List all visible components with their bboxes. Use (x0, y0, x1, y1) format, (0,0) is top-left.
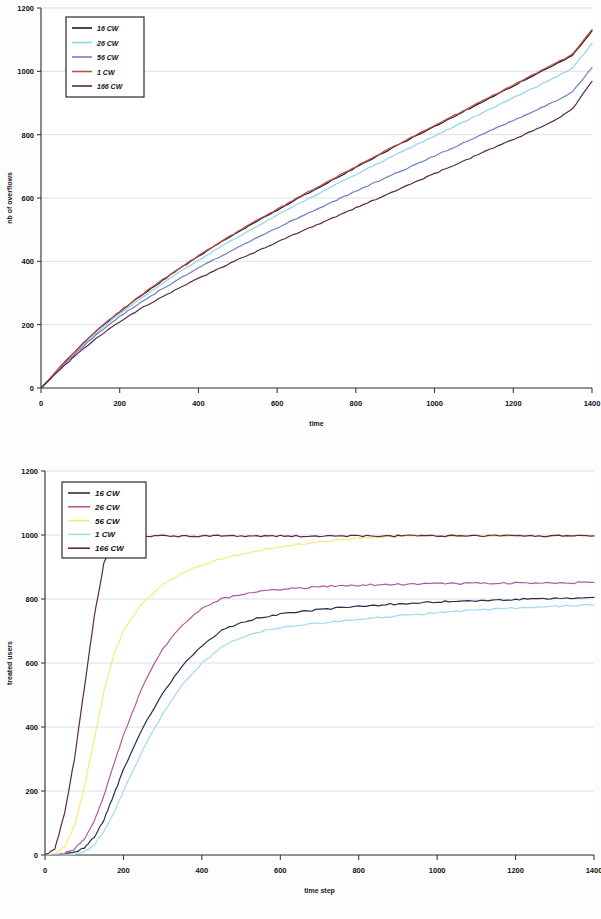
bottom-chart-figure: 0200400600800100012000200400600800100012… (0, 455, 601, 919)
legend-label: 16 CW (95, 489, 121, 498)
chart-legend: 16 CW26 CW56 CW1 CW166 CW (62, 482, 146, 558)
x-tick-label: 0 (39, 399, 43, 408)
legend-label: 26 CW (94, 503, 121, 512)
x-tick-label: 0 (43, 866, 47, 875)
legend-label: 1 CW (97, 69, 116, 76)
x-tick-label: 600 (271, 399, 284, 408)
x-tick-label: 1000 (426, 399, 443, 408)
y-tick-label: 0 (30, 384, 34, 393)
y-tick-label: 400 (21, 257, 34, 266)
legend-label: 56 CW (97, 54, 120, 61)
legend-label: 1 CW (95, 530, 116, 539)
legend-label: 26 CW (96, 40, 120, 47)
x-axis-title: time (309, 420, 324, 427)
y-tick-label: 800 (21, 131, 34, 140)
legend-label: 56 CW (95, 517, 121, 526)
x-axis-ticks: 0200400600800100012001400 (43, 855, 601, 875)
x-tick-label: 400 (196, 866, 209, 875)
top-chart-figure: 0200400600800100012000200400600800100012… (0, 0, 601, 443)
x-tick-label: 1400 (586, 866, 601, 875)
chart-legend: 16 CW26 CW56 CW1 CW166 CW (66, 17, 144, 97)
top-chart-svg: 0200400600800100012000200400600800100012… (0, 0, 601, 443)
y-axis-ticks: 020040060080010001200 (17, 4, 41, 393)
x-tick-label: 400 (192, 399, 205, 408)
y-axis-title: nb of overflows (6, 172, 13, 224)
y-tick-label: 800 (25, 595, 38, 604)
y-tick-label: 1000 (17, 67, 34, 76)
x-tick-label: 200 (117, 866, 130, 875)
x-tick-label: 800 (350, 399, 363, 408)
y-tick-label: 1200 (17, 4, 34, 13)
legend-label: 166 CW (95, 544, 125, 553)
legend-label: 16 CW (97, 25, 120, 32)
bottom-chart-svg: 0200400600800100012000200400600800100012… (0, 455, 601, 919)
x-tick-label: 1200 (507, 866, 524, 875)
figure-page: 0200400600800100012000200400600800100012… (0, 0, 601, 919)
y-axis-title: treated users (6, 641, 13, 685)
y-tick-label: 600 (21, 194, 34, 203)
x-axis-ticks: 0200400600800100012001400 (39, 388, 600, 408)
x-tick-label: 800 (352, 866, 365, 875)
y-tick-label: 600 (25, 659, 38, 668)
x-tick-label: 1200 (505, 399, 522, 408)
y-tick-label: 200 (25, 787, 38, 796)
x-tick-label: 1400 (584, 399, 601, 408)
y-tick-label: 1200 (21, 467, 38, 476)
x-axis-title: time step (304, 887, 335, 895)
x-tick-label: 200 (113, 399, 126, 408)
x-tick-label: 1000 (429, 866, 446, 875)
y-axis-ticks: 020040060080010001200 (21, 467, 45, 860)
legend-label: 166 CW (97, 83, 124, 90)
y-tick-label: 1000 (21, 531, 38, 540)
y-tick-label: 0 (34, 851, 38, 860)
y-tick-label: 200 (21, 321, 34, 330)
y-tick-label: 400 (25, 723, 38, 732)
x-tick-label: 600 (274, 866, 287, 875)
